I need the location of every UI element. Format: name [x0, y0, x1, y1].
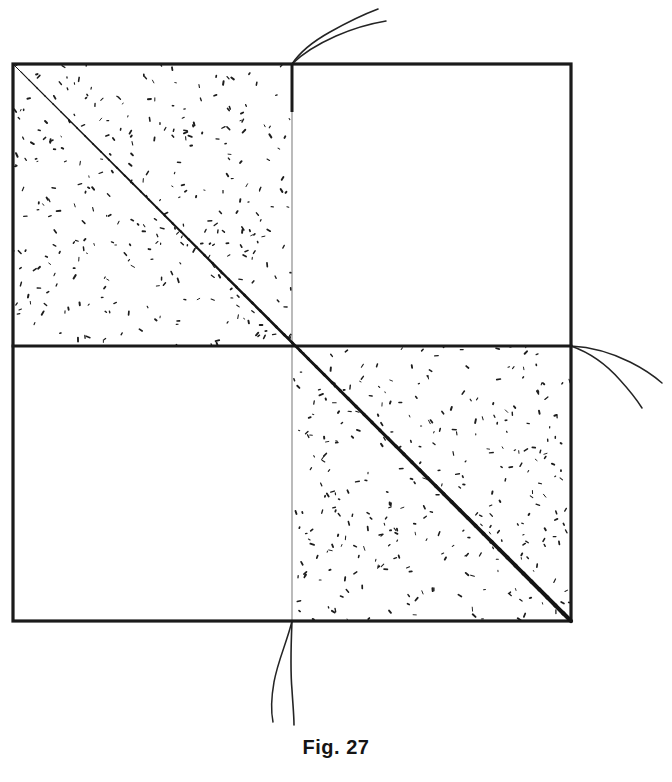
stipple-mark: [182, 185, 185, 186]
stipple-mark: [229, 107, 230, 109]
stipple-mark: [287, 207, 289, 208]
stipple-mark: [227, 174, 229, 177]
stipple-mark: [493, 547, 494, 549]
stipple-mark: [296, 511, 297, 514]
stipple-mark: [45, 121, 47, 123]
stipple-mark: [18, 117, 19, 118]
stipple-mark: [395, 533, 397, 534]
stipple-mark: [108, 215, 110, 216]
stipple-mark: [213, 244, 215, 245]
stipple-mark: [239, 279, 242, 280]
figure-caption: Fig. 27: [0, 736, 672, 758]
stipple-mark: [94, 243, 95, 245]
stipple-mark: [67, 88, 68, 90]
stipple-mark: [188, 136, 191, 137]
stipple-mark: [84, 239, 85, 240]
stipple-mark: [523, 377, 524, 378]
stipple-mark: [409, 415, 410, 417]
stipple-mark: [332, 545, 333, 548]
stipple-mark: [463, 530, 464, 531]
stipple-mark: [378, 414, 379, 415]
stipple-mark: [384, 523, 385, 525]
stipple-mark: [297, 601, 300, 602]
stipple-mark: [47, 198, 48, 200]
stipple-mark: [284, 136, 285, 138]
stipple-mark: [554, 415, 556, 416]
stipple-mark: [509, 467, 512, 468]
stipple-mark: [539, 483, 542, 484]
stipple-mark: [544, 544, 545, 546]
stipple-mark: [422, 349, 424, 351]
stipple-mark: [335, 608, 336, 611]
stipple-mark: [112, 171, 113, 173]
stipple-mark: [408, 604, 410, 605]
stipple-mark: [451, 407, 452, 410]
stipple-mark: [453, 452, 454, 456]
stipple-mark: [326, 441, 329, 442]
stipple-mark: [110, 154, 111, 155]
stipple-mark: [294, 379, 295, 381]
stipple-mark: [379, 386, 380, 387]
stipple-mark: [223, 81, 224, 85]
stipple-mark: [123, 103, 124, 104]
stipple-mark: [430, 512, 432, 513]
stipple-mark: [130, 244, 131, 245]
stipple-mark: [231, 288, 232, 289]
stipple-mark: [522, 523, 524, 524]
stipple-mark: [494, 415, 495, 417]
stipple-mark: [379, 534, 383, 535]
stipple-mark: [286, 192, 287, 193]
stipple-mark: [379, 566, 380, 567]
stipple-mark: [552, 464, 554, 465]
stipple-mark: [249, 73, 250, 74]
stipple-mark: [160, 228, 164, 229]
stipple-mark: [184, 132, 187, 134]
stipple-mark: [240, 161, 242, 163]
stipple-mark: [317, 556, 318, 559]
stipple-mark: [214, 95, 216, 96]
stipple-mark: [390, 401, 391, 403]
stipple-mark: [515, 589, 516, 591]
stipple-mark: [540, 450, 541, 452]
stipple-mark: [61, 136, 62, 137]
stipple-mark: [529, 514, 530, 515]
stipple-mark: [172, 186, 173, 187]
stipple-mark: [381, 444, 383, 446]
stipple-mark: [527, 557, 528, 559]
stipple-mark: [228, 158, 229, 159]
stipple-mark: [310, 544, 314, 545]
stipple-mark: [341, 423, 342, 424]
stipple-mark: [442, 553, 444, 554]
stipple-mark: [157, 234, 158, 236]
stipple-mark: [200, 98, 201, 101]
stipple-mark: [496, 348, 499, 349]
stipple-mark: [556, 511, 557, 514]
stipple-mark: [352, 436, 353, 437]
stipple-mark: [227, 322, 228, 323]
stipple-mark: [111, 242, 113, 243]
stipple-mark: [132, 142, 133, 145]
stipple-mark: [521, 553, 522, 555]
stipple-mark: [174, 172, 175, 174]
stipple-mark: [180, 263, 181, 264]
stipple-mark: [561, 443, 562, 444]
stipple-mark: [563, 523, 564, 525]
stipple-mark: [332, 611, 335, 613]
stipple-mark: [338, 411, 339, 413]
stipple-mark: [185, 191, 187, 192]
stipple-mark: [216, 340, 220, 341]
stipple-mark: [87, 94, 88, 95]
stipple-mark: [179, 197, 180, 198]
stipple-mark: [465, 555, 466, 556]
stipple-mark: [62, 148, 64, 149]
stipple-mark: [131, 153, 133, 155]
stipple-mark: [333, 507, 336, 508]
stipple-mark: [475, 419, 476, 423]
stipple-mark: [341, 545, 342, 547]
stipple-mark: [311, 529, 313, 531]
stipple-mark: [104, 287, 105, 289]
stipple-mark: [128, 260, 129, 261]
stipple-mark: [411, 440, 412, 442]
stipple-mark: [244, 318, 245, 319]
stipple-mark: [238, 315, 239, 319]
